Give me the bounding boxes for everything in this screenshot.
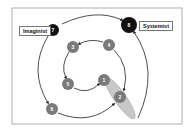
systemist-label: Systemist [139, 21, 173, 31]
svg-text:2: 2 [119, 94, 122, 100]
svg-text:1: 1 [103, 77, 106, 83]
svg-text:8: 8 [128, 22, 131, 28]
svg-text:3: 3 [72, 44, 75, 50]
svg-text:7: 7 [52, 27, 55, 33]
svg-text:5: 5 [67, 81, 70, 87]
node-2: 2 [114, 91, 126, 103]
node-1: 1 [98, 74, 110, 86]
svg-text:6: 6 [51, 106, 54, 112]
node-4: 4 [103, 39, 115, 51]
node-8: 8 [121, 17, 137, 33]
imaginist-label: Imaginist [19, 26, 51, 36]
node-5: 5 [62, 78, 74, 90]
node-3: 3 [67, 41, 79, 53]
node-6: 6 [46, 103, 58, 115]
svg-text:4: 4 [108, 42, 111, 48]
